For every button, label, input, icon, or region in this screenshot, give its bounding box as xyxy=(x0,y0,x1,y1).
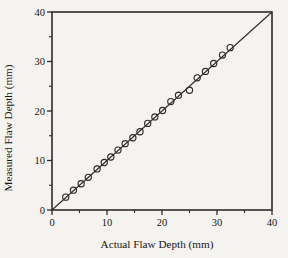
data-point xyxy=(137,129,143,135)
flaw-depth-chart: 010203040010203040 Actual Flaw Depth (mm… xyxy=(0,0,288,258)
scatter-figure: 010203040010203040 Actual Flaw Depth (mm… xyxy=(0,0,288,258)
y-tick-label: 10 xyxy=(35,155,46,166)
x-axis-label: Actual Flaw Depth (mm) xyxy=(101,238,214,251)
x-tick-label: 0 xyxy=(49,217,54,228)
y-tick-label: 40 xyxy=(35,7,46,18)
x-tick-label: 10 xyxy=(102,217,113,228)
x-tick-label: 20 xyxy=(157,217,168,228)
y-tick-label: 0 xyxy=(40,205,45,216)
data-point xyxy=(175,92,181,98)
y-tick-label: 20 xyxy=(35,106,46,117)
x-tick-label: 30 xyxy=(212,217,223,228)
data-point xyxy=(211,60,217,66)
reference-line xyxy=(52,12,272,210)
y-tick-label: 30 xyxy=(35,56,46,67)
data-point xyxy=(186,87,192,93)
y-axis-label: Measured Flaw Depth (mm) xyxy=(2,64,15,191)
x-tick-label: 40 xyxy=(267,217,278,228)
